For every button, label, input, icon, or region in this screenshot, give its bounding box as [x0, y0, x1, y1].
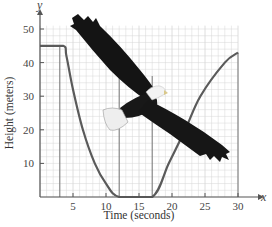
height-vs-time-chart: 510152025301020304050 Time (seconds) Hei…: [0, 0, 272, 227]
y-axis-variable: y: [36, 0, 43, 12]
eagle-upper-wing: [70, 14, 156, 100]
y-tick-label: 20: [23, 124, 35, 136]
x-tick-label: 5: [70, 200, 76, 212]
y-axis-title: Height (meters): [3, 77, 16, 150]
y-tick-label: 40: [23, 57, 35, 69]
y-tick-label: 10: [23, 157, 35, 169]
vertical-guide-lines: [60, 46, 238, 197]
x-tick-label: 30: [233, 200, 245, 212]
x-axis-title: Time (seconds): [104, 209, 175, 222]
y-tick-label: 30: [23, 90, 35, 102]
y-tick-label: 50: [23, 23, 35, 35]
x-tick-label: 25: [200, 200, 212, 212]
eagle-beak: [164, 90, 168, 95]
x-axis-variable: x: [260, 190, 267, 204]
